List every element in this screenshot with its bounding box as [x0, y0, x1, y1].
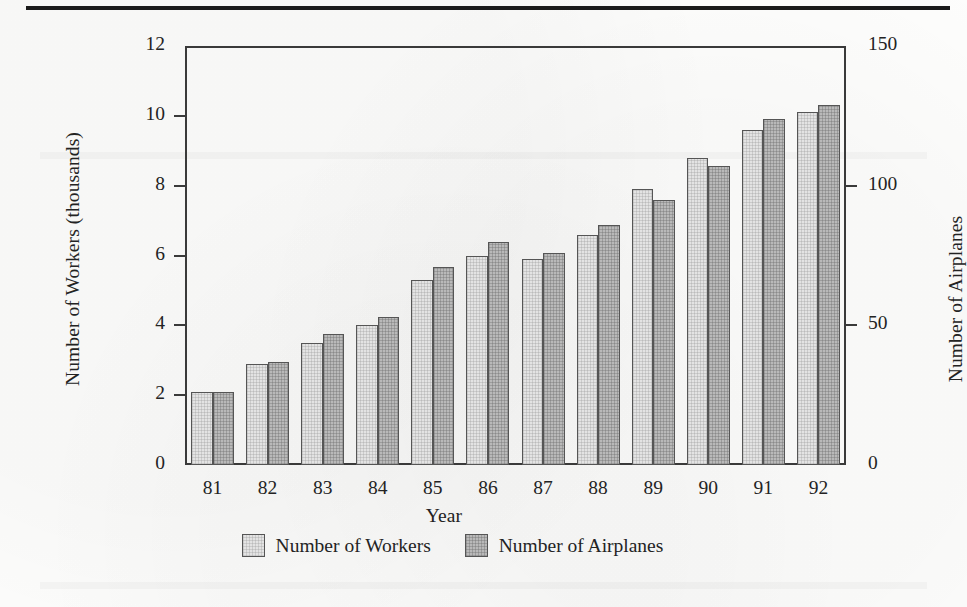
- bar-number-of-airplanes-83: [323, 334, 345, 465]
- x-tick-label-90: 90: [681, 477, 736, 499]
- y-right-tick-mark: [846, 185, 857, 187]
- x-tick-label-87: 87: [516, 477, 571, 499]
- y-right-tick-label: 0: [868, 452, 928, 474]
- bar-number-of-airplanes-87: [543, 253, 565, 465]
- x-tick-label-83: 83: [295, 477, 350, 499]
- legend-swatch-airplanes: [465, 534, 488, 557]
- legend-label-workers: Number of Workers: [276, 535, 431, 557]
- bar-number-of-airplanes-91: [763, 119, 785, 465]
- bar-number-of-workers-88: [577, 235, 599, 465]
- bar-number-of-airplanes-86: [488, 242, 510, 465]
- bar-number-of-airplanes-92: [818, 105, 840, 465]
- y-left-tick-mark: [174, 324, 185, 326]
- y-left-tick-label: 4: [93, 312, 165, 334]
- bar-number-of-airplanes-82: [268, 362, 290, 465]
- bar-number-of-workers-89: [632, 189, 654, 465]
- x-axis-title: Year: [0, 505, 888, 527]
- x-tick-label-88: 88: [571, 477, 626, 499]
- x-tick-label-82: 82: [240, 477, 295, 499]
- dual-axis-bar-chart: Number of Workers (thousands) Number of …: [0, 0, 967, 607]
- bar-number-of-workers-86: [466, 256, 488, 466]
- y-axis-left-title: Number of Workers (thousands): [62, 94, 84, 424]
- legend-label-airplanes: Number of Airplanes: [499, 535, 664, 557]
- bar-number-of-workers-91: [742, 130, 764, 465]
- x-tick-label-86: 86: [460, 477, 515, 499]
- bar-number-of-airplanes-88: [598, 225, 620, 465]
- legend-swatch-workers: [242, 534, 265, 557]
- y-left-tick-label: 0: [93, 452, 165, 474]
- x-tick-label-81: 81: [185, 477, 240, 499]
- y-right-tick-label: 150: [868, 33, 928, 55]
- bar-number-of-workers-92: [797, 112, 819, 465]
- bar-number-of-workers-87: [522, 259, 544, 465]
- y-left-tick-label: 10: [93, 103, 165, 125]
- bar-number-of-airplanes-90: [708, 166, 730, 465]
- bar-number-of-airplanes-84: [378, 317, 400, 465]
- legend-item-workers[interactable]: Number of Workers: [242, 534, 431, 557]
- x-tick-label-89: 89: [626, 477, 681, 499]
- bar-number-of-airplanes-85: [433, 267, 455, 465]
- bar-number-of-workers-83: [301, 343, 323, 465]
- bar-number-of-airplanes-81: [213, 392, 235, 465]
- bar-number-of-workers-85: [411, 280, 433, 465]
- y-left-tick-mark: [174, 115, 185, 117]
- y-left-tick-mark: [174, 185, 185, 187]
- y-left-tick-mark: [174, 394, 185, 396]
- x-tick-label-85: 85: [405, 477, 460, 499]
- y-right-tick-label: 50: [868, 312, 928, 334]
- bar-number-of-workers-90: [687, 158, 709, 465]
- y-right-tick-label: 100: [868, 173, 928, 195]
- y-axis-right-title: Number of Airplanes: [945, 134, 967, 464]
- x-tick-label-92: 92: [791, 477, 846, 499]
- legend-item-airplanes[interactable]: Number of Airplanes: [465, 534, 664, 557]
- y-left-tick-mark: [174, 255, 185, 257]
- y-left-tick-label: 6: [93, 243, 165, 265]
- y-left-tick-label: 8: [93, 173, 165, 195]
- bar-number-of-workers-84: [356, 325, 378, 465]
- bar-series-layer: [185, 46, 846, 465]
- bar-number-of-airplanes-89: [653, 200, 675, 465]
- y-left-tick-label: 2: [93, 382, 165, 404]
- bar-number-of-workers-82: [246, 364, 268, 465]
- y-left-tick-label: 12: [93, 33, 165, 55]
- y-right-tick-mark: [846, 324, 857, 326]
- x-tick-label-91: 91: [736, 477, 791, 499]
- x-tick-label-84: 84: [350, 477, 405, 499]
- chart-legend: Number of Workers Number of Airplanes: [0, 534, 905, 557]
- bar-number-of-workers-81: [191, 392, 213, 465]
